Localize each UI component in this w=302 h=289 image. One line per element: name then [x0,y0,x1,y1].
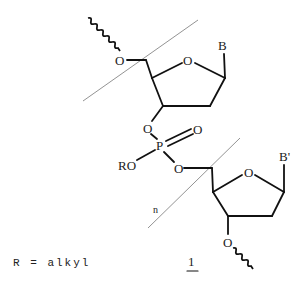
bond-ringo-c1 [195,63,225,78]
atom-o3-link: O [143,121,152,136]
atom-p-double-o: O [193,122,202,137]
top-chain-wavy-bond [88,18,120,51]
atom-ring-o-top: O [183,53,192,68]
structure-svg: O O B O P O RO O O B' O n 1 R = alkyl [0,0,302,289]
bond-c5b-c4b [212,168,213,192]
r-group-legend: R = alkyl [13,257,90,269]
bond-c3-c4 [152,78,163,106]
bottom-chain-wavy-bond [233,248,253,269]
bond-c1-base [224,54,225,78]
atom-phosphorus: P [156,138,163,153]
bond-c4-ringo [152,63,182,78]
bond-p-o-double-1 [166,129,191,141]
chemical-structure-diagram: O O B O P O RO O O B' O n 1 R = alkyl [0,0,302,289]
bond-p-o-double-2 [168,134,193,146]
repeat-subscript-n: n [153,204,158,215]
bond-c3b-c4b [213,192,228,216]
bond-p-o5link [164,152,174,162]
bond-p-or [137,150,155,160]
bond-c1b-c2b [272,192,284,216]
bond-c1-c2 [210,78,225,106]
compound-number: 1 [188,254,195,269]
atom-o3-bottom: O [223,235,232,250]
bond-c5-c4 [146,60,152,78]
atom-ro-group: RO [118,158,136,173]
atom-ring-o-bottom: O [244,165,253,180]
atom-o5-top: O [115,53,124,68]
atom-base-b-prime: B' [279,149,290,164]
atom-base-b: B [218,38,227,53]
atom-o5-link: O [174,161,183,176]
bond-c4b-ringo [213,175,242,192]
bond-ringo-c1b [255,175,284,192]
bond-c3-o3 [152,106,163,121]
